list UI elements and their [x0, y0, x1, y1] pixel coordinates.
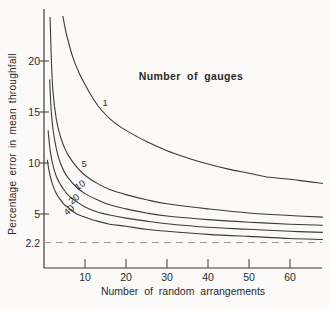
y-axis-title: Percentage error in mean throughfall: [8, 53, 18, 235]
curve-label-1: 1: [102, 98, 107, 108]
y-tick-label-10: 10: [0, 158, 40, 169]
curve-5: [50, 17, 323, 217]
x-tick-label-20: 20: [120, 272, 132, 283]
x-axis-title: Number of random arrangements: [101, 286, 265, 297]
y-tick-label-20: 20: [0, 56, 40, 67]
curve-40: [47, 160, 323, 240]
asymptote-label: 2.2: [0, 238, 40, 249]
x-tick-label-40: 40: [202, 272, 214, 283]
x-tick-label-10: 10: [79, 272, 91, 283]
y-tick-label-5: 5: [0, 209, 40, 220]
legend-title: Number of gauges: [139, 71, 244, 82]
throughfall-error-chart: Percentage error in mean throughfall Num…: [0, 0, 329, 309]
y-tick-label-15: 15: [0, 107, 40, 118]
chart-canvas: [0, 0, 329, 309]
curve-10: [50, 79, 323, 225]
curve-label-5: 5: [82, 159, 87, 169]
x-tick-label-50: 50: [243, 272, 255, 283]
curve-20: [48, 130, 323, 232]
x-tick-label-30: 30: [161, 272, 173, 283]
x-tick-label-60: 60: [284, 272, 296, 283]
